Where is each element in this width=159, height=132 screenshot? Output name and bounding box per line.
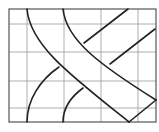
crossing-bands-diagram [0, 0, 159, 132]
band-bottom-left-to-top-right-edge-2 [84, 9, 128, 43]
band-over [27, 9, 156, 122]
band-top-left-to-bottom-right-edge-1 [27, 9, 129, 122]
band-bottom-left-to-top-right-edge-3 [63, 88, 83, 122]
band-bottom-left-to-top-right-edge-1 [27, 67, 59, 122]
band-bottom-left-to-top-right-edge-4 [110, 29, 155, 64]
band-under [27, 9, 155, 122]
band-top-left-to-bottom-right-edge-3 [129, 100, 156, 122]
